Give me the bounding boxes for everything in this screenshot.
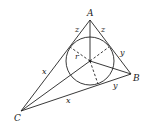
- radius-ab: [90, 47, 109, 61]
- side-ac: [21, 20, 90, 111]
- vertex-label-c: C: [14, 113, 21, 123]
- tangent-label-x-left: x: [42, 67, 47, 76]
- radius-label: r: [75, 52, 80, 61]
- tangent-label-y-upper: y: [119, 48, 125, 57]
- tangent-label-z-left: z: [74, 25, 80, 34]
- radius-ac: [70, 47, 90, 61]
- vertex-label-b: B: [132, 73, 140, 83]
- tangent-label-z-right: z: [100, 25, 106, 34]
- bisector-b: [90, 61, 131, 74]
- bisector-c: [21, 61, 90, 111]
- vertex-label-a: A: [86, 8, 94, 18]
- tangent-label-y-lower: y: [112, 81, 118, 90]
- side-ab: [90, 20, 131, 74]
- incircle-diagram: A B C z z y y x x r: [0, 0, 148, 131]
- side-bc: [21, 74, 131, 111]
- tangent-label-x-lower: x: [66, 96, 71, 105]
- radius-bc: [90, 61, 98, 84]
- incenter-point: [89, 60, 91, 62]
